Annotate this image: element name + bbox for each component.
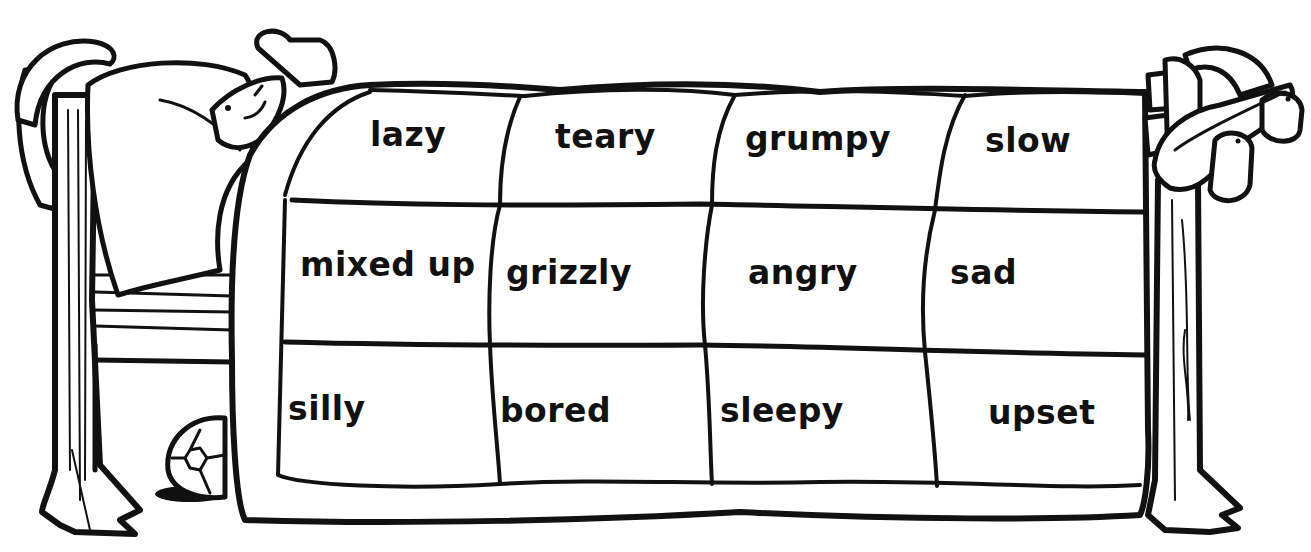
word-sleepy: sleepy (720, 391, 844, 430)
word-grumpy: grumpy (745, 119, 891, 158)
word-lazy: lazy (370, 115, 446, 154)
soccer-ball (155, 418, 225, 502)
word-slow: slow (985, 121, 1071, 160)
bear-paw (1145, 48, 1302, 200)
word-mixed-up: mixed up (300, 245, 476, 284)
word-sad: sad (950, 253, 1017, 292)
word-angry: angry (748, 253, 858, 292)
bed-illustration: lazy teary grumpy slow mixed up grizzly … (0, 0, 1311, 552)
word-grizzly: grizzly (506, 253, 632, 292)
word-upset: upset (988, 393, 1095, 432)
word-teary: teary (555, 117, 656, 156)
word-silly: silly (288, 389, 366, 428)
word-bored: bored (500, 391, 611, 430)
right-bedpost (1148, 180, 1240, 532)
